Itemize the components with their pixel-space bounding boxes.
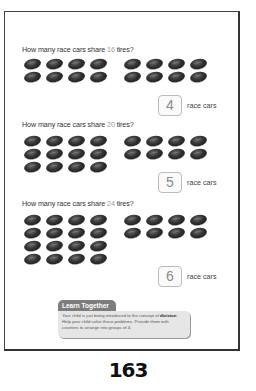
learn-together-note: Your child is just being introduced to t… [58, 311, 190, 338]
answer-box-1[interactable]: 4 [158, 95, 182, 116]
question-1: How many race cars share 16 tires? [22, 45, 134, 54]
answer-label-1: race cars [187, 101, 217, 110]
question-number: 16 [107, 45, 115, 54]
question-number: 24 [107, 199, 115, 208]
answer-box-3[interactable]: 6 [158, 266, 182, 287]
question-text: How many race cars share [22, 45, 107, 54]
question-text: How many race cars share [22, 199, 107, 208]
question-2: How many race cars share 20 tires? [22, 120, 134, 129]
question-text: tires? [115, 199, 134, 208]
answer-label-3: race cars [187, 272, 217, 281]
note-bold-word: division [160, 313, 176, 318]
question-3: How many race cars share 24 tires? [22, 199, 134, 208]
question-text: tires? [115, 45, 134, 54]
question-text: How many race cars share [22, 120, 107, 129]
answer-label-2: race cars [187, 178, 217, 187]
page-number: 163 [0, 358, 256, 382]
question-number: 20 [107, 120, 115, 129]
note-text: Your child is just being introduced to t… [62, 313, 160, 318]
question-text: tires? [115, 120, 134, 129]
answer-box-2[interactable]: 5 [158, 172, 182, 193]
